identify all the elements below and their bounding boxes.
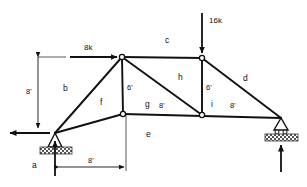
roller-wheel-left-icon: [275, 130, 279, 134]
member-f-label: f: [100, 98, 102, 107]
load-8k-label: 8k: [84, 44, 92, 52]
dim-panel-right-label: 8': [230, 102, 236, 110]
truss-drawing: [0, 0, 307, 187]
dim-span-left-label: 8': [88, 157, 94, 165]
joint-bottom-left: [120, 111, 125, 116]
member-h-label: h: [178, 73, 183, 82]
roller-triangle-icon: [274, 118, 288, 130]
dim-vertical-right-post-label: 6': [206, 84, 212, 92]
truss-diagram-canvas: 8k 16k a b c d e f g h i 8' 8' 6' 6' 8' …: [0, 0, 307, 187]
member-g-label: g: [145, 100, 150, 109]
member-f-line: [55, 114, 123, 133]
member-b-label: b: [63, 84, 68, 93]
joint-top-left: [119, 54, 124, 59]
support-left-pin: [40, 133, 72, 176]
member-a-label: a: [32, 161, 37, 170]
member-e-label: e: [146, 130, 151, 139]
support-left-hatch-base: [40, 147, 72, 154]
member-left-post-line: [122, 57, 123, 114]
dim-height-left-label: 8': [26, 88, 32, 96]
member-b-line: [55, 57, 122, 133]
member-c-line: [122, 57, 202, 58]
member-i-label: i: [211, 100, 213, 109]
member-d-label: d: [243, 74, 248, 83]
roller-wheel-right-icon: [283, 130, 287, 134]
joint-top-right: [199, 55, 204, 60]
dim-vertical-left-post-label: 6': [127, 84, 133, 92]
joint-bottom-right: [199, 112, 204, 117]
load-16k-label: 16k: [209, 17, 222, 25]
truss-members: [55, 57, 281, 133]
dim-panel-mid-label: 8': [159, 102, 165, 110]
member-c-label: c: [165, 36, 169, 45]
member-d-line: [202, 58, 281, 118]
support-right-hatch-base: [265, 134, 298, 141]
support-right-roller: [265, 118, 298, 172]
